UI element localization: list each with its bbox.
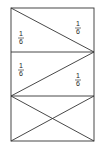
- svg-text:1: 1: [76, 20, 80, 27]
- diagonal-middle: [11, 52, 94, 96]
- fraction-diagram: 1 6 1 6 1 6 1 6: [0, 0, 100, 152]
- svg-text:6: 6: [76, 80, 80, 87]
- svg-text:6: 6: [19, 70, 23, 77]
- label-1: 1 6: [18, 30, 24, 45]
- svg-text:1: 1: [19, 30, 23, 37]
- diagonal-top: [11, 8, 94, 52]
- svg-text:1: 1: [19, 62, 23, 69]
- svg-text:6: 6: [76, 28, 80, 35]
- label-2: 1 6: [75, 20, 81, 35]
- label-4: 1 6: [75, 72, 81, 87]
- svg-text:1: 1: [76, 72, 80, 79]
- svg-text:6: 6: [19, 38, 23, 45]
- label-3: 1 6: [18, 62, 24, 77]
